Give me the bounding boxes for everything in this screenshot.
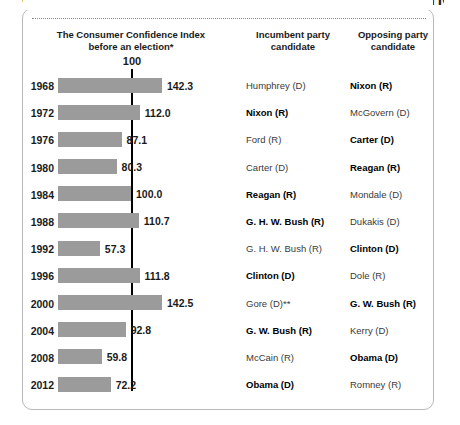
bar-value-label: 92.8	[131, 324, 151, 336]
bar-value-label: 142.3	[167, 80, 193, 92]
row-year-label: 1968	[18, 80, 54, 92]
opposing-candidate: Obama (D)	[350, 352, 398, 363]
bar	[58, 349, 102, 364]
bar	[58, 322, 126, 337]
header-divider	[32, 18, 426, 19]
table-row: 1996111.8Clinton (D)Dole (R)	[0, 264, 460, 291]
row-year-label: 1988	[18, 216, 54, 228]
row-year-label: 2008	[18, 352, 54, 364]
bar	[58, 241, 100, 256]
table-row: 1984100.0Reagan (R)Mondale (D)	[0, 183, 460, 210]
bar-value-label: 142.5	[167, 297, 193, 309]
bar	[58, 268, 140, 283]
bar-value-label: 59.8	[107, 351, 127, 363]
incumbent-candidate: Clinton (D)	[246, 270, 295, 281]
table-row: 199257.3G. H. W. Bush (R)Clinton (D)	[0, 237, 460, 264]
opposing-candidate: Dole (R)	[350, 270, 385, 281]
incumbent-candidate: G. W. Bush (R)	[246, 325, 312, 336]
opposing-candidate: Carter (D)	[350, 134, 394, 145]
incumbent-candidate: G. H. W. Bush (R)	[246, 216, 324, 227]
bar-value-label: 100.0	[136, 188, 162, 200]
bar	[58, 132, 122, 147]
bar-value-label: 87.1	[127, 134, 147, 146]
row-year-label: 1984	[18, 189, 54, 201]
bar-value-label: 80.3	[122, 161, 142, 173]
table-row: 2000142.5Gore (D)**G. W. Bush (R)	[0, 292, 460, 319]
incumbent-candidate: Gore (D)**	[246, 298, 290, 309]
opposing-candidate: Romney (R)	[350, 379, 401, 390]
table-row: 198080.3Carter (D)Reagan (R)	[0, 156, 460, 183]
table-row: 201272.2Obama (D)Romney (R)	[0, 373, 460, 400]
bar-value-label: 112.0	[145, 107, 171, 119]
bar-value-label: 72.2	[116, 379, 136, 391]
table-row: 197687.1Ford (R)Carter (D)	[0, 128, 460, 155]
row-year-label: 1980	[18, 162, 54, 174]
opposing-candidate: Nixon (R)	[350, 80, 392, 91]
opposing-candidate: G. W. Bush (R)	[350, 298, 416, 309]
row-year-label: 2012	[18, 379, 54, 391]
row-year-label: 2000	[18, 298, 54, 310]
incumbent-candidate: McCain (R)	[246, 352, 294, 363]
table-row: 200859.8McCain (R)Obama (D)	[0, 346, 460, 373]
row-year-label: 2004	[18, 325, 54, 337]
bar	[58, 377, 111, 392]
column-header-chart: The Consumer Confidence Index before an …	[46, 29, 216, 53]
incumbent-candidate: Reagan (R)	[246, 189, 296, 200]
chart-rows: 1968142.3Humphrey (D)Nixon (R)1972112.0N…	[0, 74, 460, 400]
row-year-label: 1972	[18, 107, 54, 119]
row-year-label: 1996	[18, 270, 54, 282]
bar	[58, 159, 117, 174]
bar-value-label: 111.8	[145, 270, 170, 282]
opposing-candidate: Kerry (D)	[350, 325, 389, 336]
incumbent-candidate: Nixon (R)	[246, 107, 288, 118]
row-year-label: 1992	[18, 243, 54, 255]
bar	[58, 186, 131, 201]
opposing-candidate: Mondale (D)	[350, 189, 402, 200]
incumbent-candidate: Humphrey (D)	[246, 80, 306, 91]
bar	[58, 213, 139, 228]
axis-reference-label: 100	[112, 55, 152, 67]
opposing-candidate: Clinton (D)	[350, 243, 399, 254]
table-row: 1972112.0Nixon (R)McGovern (D)	[0, 101, 460, 128]
bar	[58, 78, 162, 93]
row-year-label: 1976	[18, 134, 54, 146]
table-row: 1988110.7G. H. W. Bush (R)Dukakis (D)	[0, 210, 460, 237]
bar-value-label: 57.3	[105, 243, 125, 255]
opposing-candidate: McGovern (D)	[350, 107, 410, 118]
incumbent-candidate: Ford (R)	[246, 134, 281, 145]
opposing-candidate: Reagan (R)	[350, 162, 400, 173]
panel-top-mask	[23, 0, 433, 10]
incumbent-candidate: Carter (D)	[246, 162, 288, 173]
table-row: 1968142.3Humphrey (D)Nixon (R)	[0, 74, 460, 101]
bar-value-label: 110.7	[144, 215, 170, 227]
bar	[58, 295, 162, 310]
opposing-candidate: Dukakis (D)	[350, 216, 400, 227]
column-header-incumbent: Incumbent party candidate	[246, 29, 340, 53]
incumbent-candidate: G. H. W. Bush (R)	[246, 243, 322, 254]
column-header-opposing: Opposing party candidate	[350, 29, 436, 53]
bar	[58, 105, 140, 120]
incumbent-candidate: Obama (D)	[246, 379, 294, 390]
table-row: 200492.8G. W. Bush (R)Kerry (D)	[0, 319, 460, 346]
